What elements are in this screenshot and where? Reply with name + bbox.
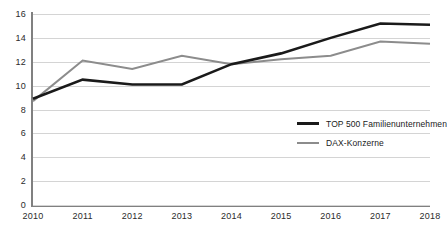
x-axis-tick-label: 2013	[171, 211, 192, 221]
x-axis-tick-label: 2017	[370, 211, 391, 221]
series-line-dax	[33, 41, 430, 101]
x-axis-tick-label: 2011	[73, 211, 93, 221]
y-axis-tick-label: 8	[21, 105, 26, 115]
legend-item-dax: DAX-Konzerne	[297, 133, 433, 152]
y-axis-tick-label: 10	[16, 81, 26, 91]
y-axis-tick-label: 16	[16, 9, 26, 19]
x-axis-tick-label: 2018	[420, 211, 441, 221]
x-axis-tick-label: 2010	[23, 211, 44, 221]
plot-area: 0246810121416	[33, 14, 430, 205]
x-axis-tick-label: 2012	[122, 211, 143, 221]
y-axis-tick-label: 14	[16, 33, 26, 43]
x-axis-tick-label: 2015	[271, 211, 292, 221]
gridline-y-0: 0	[33, 205, 430, 206]
series-container	[33, 14, 430, 205]
legend-swatch-top500	[297, 122, 319, 125]
legend-item-top500: TOP 500 Familienunternehmen	[297, 114, 433, 133]
legend-label-dax: DAX-Konzerne	[326, 138, 384, 148]
legend-swatch-dax	[297, 142, 319, 144]
legend-label-top500: TOP 500 Familienunternehmen	[326, 119, 447, 129]
y-axis-tick-label: 6	[21, 128, 26, 138]
y-axis-tick-label: 0	[21, 200, 26, 210]
y-axis-tick-label: 4	[21, 152, 26, 162]
x-axis-tick-label: 2016	[320, 211, 341, 221]
y-axis-tick-label: 2	[21, 176, 26, 186]
series-line-top500	[33, 24, 430, 99]
y-axis-tick-label: 12	[16, 57, 26, 67]
x-axis-tick-label: 2014	[221, 211, 242, 221]
chart-legend: TOP 500 Familienunternehmen DAX-Konzerne	[297, 114, 433, 152]
